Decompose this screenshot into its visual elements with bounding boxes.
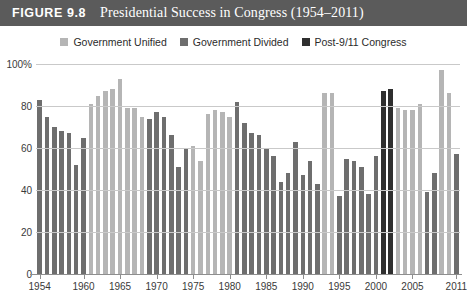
bar-2011 [454,154,459,274]
bar-1984 [257,135,262,274]
y-axis: 020406080100% [0,0,32,305]
bar-1975 [191,146,196,274]
bar-1972 [169,135,174,274]
bar-2003 [396,108,401,274]
y-tick-label-80: 80 [21,101,32,112]
bar-2010 [447,93,452,274]
legend-item-post911: Post-9/11 Congress [302,36,407,48]
bar-1964 [110,89,115,274]
bar-1983 [249,133,254,274]
x-tick-label-2000: 2000 [365,281,387,292]
legend-label-divided: Government Divided [193,36,289,48]
x-tick-label-1970: 1970 [145,281,167,292]
legend-item-unified: Government Unified [60,36,166,48]
bar-1967 [132,108,137,274]
bar-1960 [81,138,86,275]
bar-group [36,64,460,274]
figure-title-bar: FIGURE 9.8 Presidential Success in Congr… [0,0,467,26]
legend-swatch-post911 [302,38,310,46]
bar-2000 [374,156,379,274]
bar-2001 [381,91,386,274]
bar-2009 [439,70,444,274]
bar-1992 [315,184,320,274]
bar-1974 [184,148,189,274]
legend-swatch-divided [180,38,188,46]
bar-2002 [388,89,393,274]
bar-1976 [198,161,203,274]
legend-swatch-unified [60,38,68,46]
x-tick-label-2011: 2011 [446,281,467,292]
legend-item-divided: Government Divided [180,36,289,48]
bar-1994 [330,93,335,274]
bar-1981 [235,102,240,274]
gridline-40 [36,190,460,191]
gridline-60 [36,148,460,149]
x-tick-label-1975: 1975 [182,281,204,292]
legend-label-unified: Government Unified [73,36,166,48]
bar-1958 [67,133,72,274]
bar-1962 [96,96,101,275]
bar-1993 [322,93,327,274]
gridline-20 [36,232,460,233]
x-tick-label-1995: 1995 [328,281,350,292]
bar-1995 [337,196,342,274]
bar-1968 [140,117,145,275]
chart-legend: Government UnifiedGovernment DividedPost… [0,33,467,51]
bar-1978 [213,110,218,274]
bar-1969 [147,119,152,274]
x-tick-label-1960: 1960 [72,281,94,292]
bar-1998 [359,167,364,274]
bar-1963 [103,91,108,274]
bar-1980 [227,117,232,275]
bar-2006 [418,104,423,274]
y-tick-label-40: 40 [21,185,32,196]
x-tick-label-1990: 1990 [292,281,314,292]
bar-1988 [286,173,291,274]
bar-1987 [279,182,284,274]
x-axis-line [30,274,462,275]
y-tick-label-100: 100% [6,59,32,70]
bar-1977 [206,114,211,274]
bar-1959 [74,165,79,274]
bar-1999 [366,194,371,274]
bar-1982 [242,123,247,274]
bar-1997 [352,161,357,274]
bar-1961 [89,104,94,274]
bar-1954 [37,100,42,274]
bar-2004 [403,110,408,274]
x-tick-label-1980: 1980 [219,281,241,292]
bar-1979 [220,112,225,274]
x-tick-label-1985: 1985 [255,281,277,292]
y-tick-label-20: 20 [21,227,32,238]
bar-1970 [154,112,159,274]
x-tick-label-2005: 2005 [401,281,423,292]
bar-1957 [59,131,64,274]
bar-1996 [344,159,349,275]
bar-2007 [425,192,430,274]
x-tick-label-1965: 1965 [109,281,131,292]
bar-1985 [264,148,269,274]
bar-1955 [45,117,50,275]
bar-1986 [271,156,276,274]
legend-label-post911: Post-9/11 Congress [315,36,407,48]
bar-1973 [176,167,181,274]
bar-1966 [125,108,130,274]
bar-1989 [293,142,298,274]
gridline-100 [36,64,460,65]
plot-area [36,64,460,274]
bar-1965 [118,79,123,274]
bar-1956 [52,127,57,274]
y-tick-label-60: 60 [21,143,32,154]
bar-1971 [162,117,167,275]
bar-2008 [432,173,437,274]
bar-2005 [410,110,415,274]
gridline-80 [36,106,460,107]
bar-1991 [308,161,313,274]
figure-title: Presidential Success in Congress (1954–2… [100,5,364,21]
